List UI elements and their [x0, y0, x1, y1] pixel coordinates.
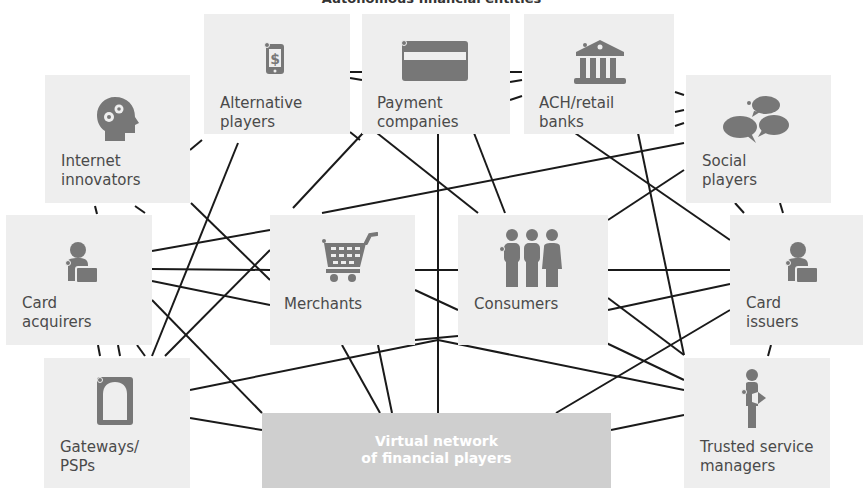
node-ach-retail-banks: ACH/retail banks: [524, 14, 674, 134]
speech-bubbles-icon: [722, 95, 790, 149]
node-gateways-psps: Gateways/ PSPs: [44, 358, 190, 488]
node-label: Internet innovators: [61, 152, 140, 190]
gateway-door-icon: [96, 376, 134, 430]
person-badge-icon: [740, 368, 768, 434]
node-label: Social players: [702, 152, 757, 190]
person-card-icon: [784, 241, 820, 289]
node-payment-companies: Payment companies: [362, 14, 510, 134]
svg-text:$: $: [270, 51, 280, 67]
node-social-players: Social players: [686, 75, 831, 203]
node-label: Card issuers: [746, 294, 799, 332]
node-card-acquirers: Card acquirers: [6, 215, 152, 345]
virtual-network-label: Virtual network of financial players: [262, 433, 611, 467]
people-group-icon: [500, 229, 566, 293]
virtual-network-box: Virtual network of financial players: [262, 413, 611, 488]
credit-card-icon: [401, 40, 469, 86]
node-label: Consumers: [474, 295, 558, 314]
node-label: ACH/retail banks: [539, 94, 614, 132]
node-internet-innovators: Internet innovators: [45, 75, 190, 203]
node-trusted-service-managers: Trusted service managers: [684, 358, 830, 488]
node-label: Trusted service managers: [700, 438, 814, 476]
bank-icon: [572, 38, 628, 90]
phone-dollar-icon: $: [264, 42, 286, 80]
node-merchants: Merchants: [270, 215, 415, 345]
node-label: Card acquirers: [22, 294, 92, 332]
node-label: Alternative players: [220, 94, 302, 132]
node-card-issuers: Card issuers: [730, 215, 863, 345]
node-alternative-players: $ Alternative players: [204, 14, 350, 134]
node-label: Merchants: [284, 295, 362, 314]
person-card-icon: [64, 241, 100, 289]
shopping-cart-icon: [320, 231, 378, 287]
node-consumers: Consumers: [458, 215, 608, 345]
head-gears-icon: [95, 95, 139, 147]
node-label: Payment companies: [377, 94, 458, 132]
node-label: Gateways/ PSPs: [60, 438, 139, 476]
